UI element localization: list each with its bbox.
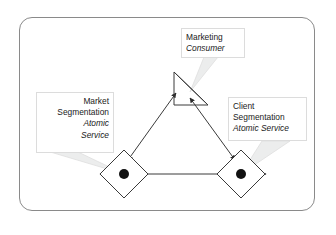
label-line-segmentation: Segmentation	[41, 107, 109, 118]
label-line-client: Client	[233, 101, 302, 112]
diagram-canvas: Marketing Consumer Market Segmentation A…	[0, 0, 336, 235]
label-market-segmentation[interactable]: Market Segmentation Atomic Service	[36, 92, 114, 153]
node-marketing-consumer[interactable]	[174, 72, 208, 105]
label-line-service: Service	[41, 130, 109, 141]
label-client-segmentation[interactable]: Client Segmentation Atomic Service	[228, 97, 307, 141]
label-line-atomic-service: Atomic Service	[233, 123, 302, 134]
label-line-marketing: Marketing	[186, 32, 240, 43]
label-line-consumer: Consumer	[186, 43, 240, 54]
node-client-segmentation-service[interactable]	[217, 150, 265, 198]
connector-market-to-marketing	[128, 93, 176, 160]
label-line-atomic: Atomic	[41, 118, 109, 129]
label-line-segmentation: Segmentation	[233, 112, 302, 123]
atomic-service-dot	[236, 169, 246, 179]
node-market-segmentation-service[interactable]	[100, 150, 148, 198]
label-marketing-consumer[interactable]: Marketing Consumer	[181, 28, 245, 58]
label-line-market: Market	[41, 96, 109, 107]
atomic-service-dot	[119, 169, 129, 179]
